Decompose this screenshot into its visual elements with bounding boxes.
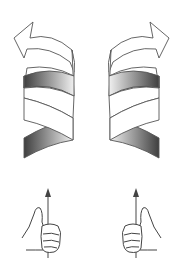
right-helix-arrowhead xyxy=(109,22,169,72)
left-hand-thumb-up xyxy=(22,188,61,258)
left-helix xyxy=(14,22,75,158)
left-axis-arrowhead xyxy=(45,188,51,197)
diagram-canvas xyxy=(0,0,183,275)
right-axis-arrowhead xyxy=(133,188,139,197)
left-helix-arrowhead xyxy=(14,22,74,72)
right-helix xyxy=(108,22,169,158)
helix-handedness-diagram xyxy=(0,0,183,275)
right-hand-thumb-up xyxy=(122,188,161,258)
